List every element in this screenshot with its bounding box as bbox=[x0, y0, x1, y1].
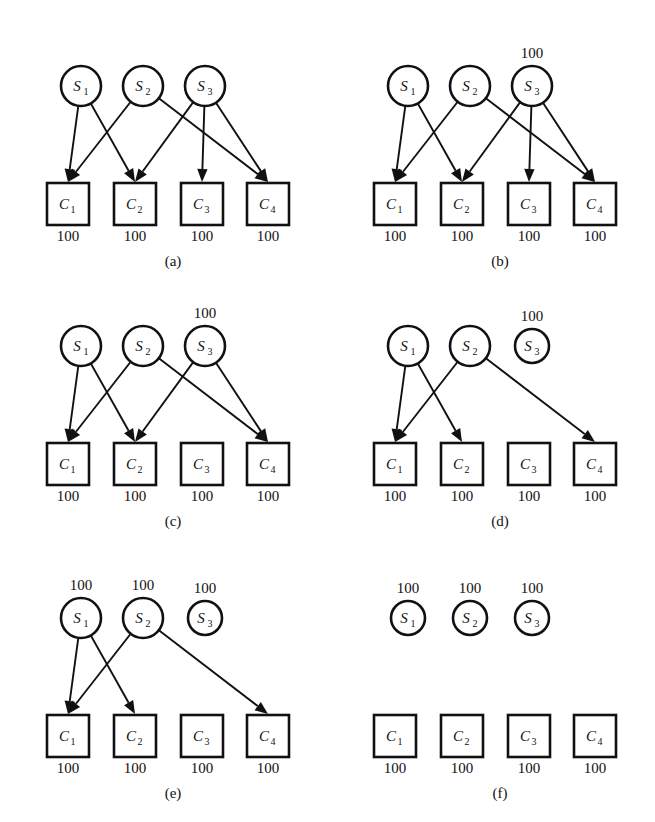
client-capacity-c1: 100 bbox=[57, 760, 80, 776]
source-label-s2-letter: S bbox=[462, 338, 470, 354]
edge-S3-C2 bbox=[143, 102, 194, 171]
source-circle-s1 bbox=[61, 598, 101, 638]
source-capacity-s3: 100 bbox=[194, 305, 217, 321]
client-label-c1-subscript: 1 bbox=[71, 464, 76, 475]
edge-S3-C4 bbox=[543, 103, 588, 171]
source-circle-s3 bbox=[512, 66, 552, 106]
client-node-c4: C4 bbox=[247, 715, 289, 757]
client-label-c3-subscript: 3 bbox=[532, 204, 537, 215]
client-label-c2-subscript: 2 bbox=[465, 736, 470, 747]
client-label-c2-letter: C bbox=[126, 456, 137, 472]
client-capacity-c2: 100 bbox=[451, 488, 474, 504]
panel-e: S1100S2100S3100C1100C2100C3100C4100(e) bbox=[10, 540, 337, 814]
edge-S3-C4 bbox=[216, 103, 261, 171]
client-capacity-c3: 100 bbox=[518, 760, 541, 776]
client-node-c1: C1 bbox=[374, 715, 416, 757]
client-capacity-c4: 100 bbox=[257, 760, 280, 776]
source-node-s3: S3 bbox=[185, 326, 225, 366]
client-label-c1-letter: C bbox=[386, 456, 397, 472]
source-capacity-s2: 100 bbox=[132, 577, 155, 593]
client-label-c2-subscript: 2 bbox=[138, 736, 143, 747]
edge-S1-C1 bbox=[397, 106, 406, 169]
client-capacity-c3: 100 bbox=[191, 488, 214, 504]
source-label-s2-subscript: 2 bbox=[146, 86, 151, 97]
client-capacity-c4: 100 bbox=[584, 228, 607, 244]
source-label-s3-letter: S bbox=[197, 338, 205, 354]
edge-S1-C1 bbox=[70, 638, 79, 701]
edge-S1-C1 bbox=[70, 366, 79, 429]
source-node-s2: S2 bbox=[123, 66, 163, 106]
source-node-s3: S3 bbox=[515, 601, 549, 635]
source-label-s3-letter: S bbox=[197, 78, 205, 94]
client-capacity-c1: 100 bbox=[384, 488, 407, 504]
client-label-c1-subscript: 1 bbox=[398, 736, 403, 747]
panel-b-canvas: S1S2S3100C1100C2100C3100C4100(b) bbox=[337, 8, 655, 282]
source-label-s2-subscript: 2 bbox=[146, 346, 151, 357]
client-label-c4-letter: C bbox=[586, 196, 597, 212]
client-node-c4: C4 bbox=[574, 183, 616, 225]
arrowhead-S3-C2 bbox=[135, 168, 147, 182]
source-circle-s1 bbox=[388, 66, 428, 106]
client-capacity-c2: 100 bbox=[124, 488, 147, 504]
client-node-c2: C2 bbox=[114, 715, 156, 757]
client-label-c1-letter: C bbox=[386, 728, 397, 744]
panel-f: S1100S2100S3100C1100C2100C3100C4100(f) bbox=[337, 540, 655, 814]
source-label-s1-subscript: 1 bbox=[84, 618, 89, 629]
source-label-s2-subscript: 2 bbox=[473, 86, 478, 97]
client-label-c1-subscript: 1 bbox=[71, 736, 76, 747]
client-label-c2-letter: C bbox=[453, 196, 464, 212]
client-label-c2-subscript: 2 bbox=[465, 464, 470, 475]
client-label-c3-letter: C bbox=[520, 456, 531, 472]
source-node-s1: S1 bbox=[61, 66, 101, 106]
edge-S3-C4 bbox=[216, 363, 261, 431]
arrowhead-S1-C2 bbox=[451, 428, 462, 442]
source-node-s3: S3 bbox=[188, 601, 222, 635]
edge-S3-C3 bbox=[202, 106, 204, 169]
source-label-s3-letter: S bbox=[197, 610, 205, 626]
client-label-c4-subscript: 4 bbox=[598, 736, 603, 747]
client-capacity-c1: 100 bbox=[384, 228, 407, 244]
client-label-c3-letter: C bbox=[520, 728, 531, 744]
source-circle-s3 bbox=[515, 601, 549, 635]
client-label-c4-subscript: 4 bbox=[271, 464, 276, 475]
arrowhead-S1-C2 bbox=[124, 428, 135, 442]
client-label-c4-letter: C bbox=[259, 196, 270, 212]
edge-S1-C2 bbox=[91, 363, 129, 430]
client-capacity-c2: 100 bbox=[451, 228, 474, 244]
source-label-s1-subscript: 1 bbox=[84, 346, 89, 357]
source-circle-s1 bbox=[61, 326, 101, 366]
client-capacity-c2: 100 bbox=[124, 228, 147, 244]
panel-d-canvas: S1S2S3100C1100C2100C3100C4100(d) bbox=[337, 268, 655, 542]
source-label-s3-subscript: 3 bbox=[208, 346, 213, 357]
client-node-c2: C2 bbox=[441, 443, 483, 485]
panel-caption-d: (d) bbox=[491, 513, 509, 530]
client-node-c1: C1 bbox=[47, 183, 89, 225]
panel-c-canvas: S1S2S3100C1100C2100C3100C4100(c) bbox=[10, 268, 337, 542]
edge-S2-C4 bbox=[486, 98, 585, 174]
source-circle-s2 bbox=[453, 601, 487, 635]
client-capacity-c1: 100 bbox=[384, 760, 407, 776]
client-capacity-c4: 100 bbox=[584, 488, 607, 504]
source-label-s2-letter: S bbox=[462, 78, 470, 94]
arrowhead-S3-C2 bbox=[462, 168, 474, 182]
panel-a: S1S2S3C1100C2100C3100C4100(a) bbox=[10, 8, 337, 282]
source-node-s1: S1 bbox=[61, 598, 101, 638]
source-label-s1-letter: S bbox=[400, 78, 408, 94]
source-label-s1-letter: S bbox=[400, 610, 408, 626]
source-label-s3-letter: S bbox=[524, 78, 532, 94]
source-label-s1-letter: S bbox=[73, 610, 81, 626]
edge-S3-C3 bbox=[529, 106, 531, 169]
client-capacity-c4: 100 bbox=[257, 228, 280, 244]
client-label-c4-letter: C bbox=[586, 728, 597, 744]
arrowhead-S1-C2 bbox=[124, 168, 135, 182]
source-node-s2: S2 bbox=[123, 326, 163, 366]
client-capacity-c4: 100 bbox=[257, 488, 280, 504]
client-label-c4-subscript: 4 bbox=[271, 736, 276, 747]
client-node-c3: C3 bbox=[181, 715, 223, 757]
client-node-c1: C1 bbox=[374, 443, 416, 485]
edge-S3-C2 bbox=[143, 362, 194, 431]
arrowhead-S1-C2 bbox=[451, 168, 462, 182]
edge-S1-C1 bbox=[70, 106, 79, 169]
client-node-c1: C1 bbox=[47, 715, 89, 757]
client-node-c2: C2 bbox=[441, 183, 483, 225]
